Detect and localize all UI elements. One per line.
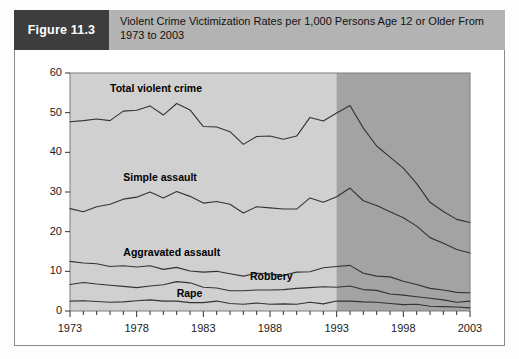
x-axis-label-1993: 1993: [316, 322, 358, 334]
y-axis-label-30: 30: [24, 185, 62, 197]
y-axis-label-0: 0: [24, 304, 62, 316]
series-label-simple-assault: Simple assault: [123, 171, 197, 183]
x-axis-label-1983: 1983: [182, 322, 224, 334]
y-axis-label-10: 10: [24, 264, 62, 276]
x-axis-label-1988: 1988: [249, 322, 291, 334]
x-axis-label-2003: 2003: [449, 322, 491, 334]
figure-title: Violent Crime Victimization Rates per 1,…: [109, 10, 505, 50]
plot-frame: [14, 50, 505, 346]
y-axis-label-60: 60: [24, 66, 62, 78]
x-axis-label-1998: 1998: [382, 322, 424, 334]
y-axis-label-20: 20: [24, 225, 62, 237]
series-label-robbery: Robbery: [250, 270, 293, 282]
figure-container: Figure 11.3 Violent Crime Victimization …: [0, 0, 519, 359]
x-axis-label-1978: 1978: [116, 322, 158, 334]
figure-header: Figure 11.3 Violent Crime Victimization …: [14, 10, 505, 50]
y-axis-label-50: 50: [24, 106, 62, 118]
x-axis-label-1973: 1973: [49, 322, 91, 334]
series-label-rape: Rape: [177, 287, 203, 299]
series-label-aggravated-assault: Aggravated assault: [123, 246, 220, 258]
figure-number-tag: Figure 11.3: [14, 10, 109, 50]
series-label-total-violent-crime: Total violent crime: [110, 82, 202, 94]
y-axis-label-40: 40: [24, 145, 62, 157]
